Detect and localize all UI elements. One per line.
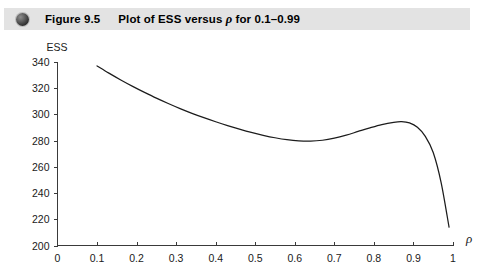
sphere-bullet-icon bbox=[16, 13, 29, 26]
y-tick-label: 280 bbox=[32, 135, 50, 147]
y-axis-title: ESS bbox=[46, 41, 67, 53]
figure-title-post: for 0.1–0.99 bbox=[232, 13, 300, 25]
y-tick-label: 220 bbox=[32, 213, 50, 225]
x-tick-label: 0.2 bbox=[129, 252, 144, 264]
y-tick-label: 300 bbox=[32, 108, 50, 120]
x-tick-label: 0.3 bbox=[169, 252, 184, 264]
x-tick-label: 0.7 bbox=[327, 252, 342, 264]
chart-plot-area: ESS 200220240260280300320340 00.10.20.30… bbox=[0, 34, 499, 280]
y-tick-label: 240 bbox=[32, 187, 50, 199]
x-tick-label: 1 bbox=[450, 252, 456, 264]
figure-caption-text: Figure 9.5Plot of ESS versus ρ for 0.1–0… bbox=[45, 12, 300, 27]
y-tick-label: 320 bbox=[32, 82, 50, 94]
x-tick-label: 0.8 bbox=[367, 252, 382, 264]
x-tick-label: 0.9 bbox=[406, 252, 421, 264]
y-tick-label: 200 bbox=[32, 240, 50, 252]
ess-data-curve bbox=[97, 66, 449, 227]
y-tick-label: 260 bbox=[32, 161, 50, 173]
x-tick-label: 0.6 bbox=[287, 252, 302, 264]
y-axis-ticks: 200220240260280300320340 bbox=[32, 56, 58, 252]
figure-title-pre: Plot of ESS versus bbox=[118, 13, 225, 25]
x-tick-label: 0.4 bbox=[208, 252, 223, 264]
x-tick-label: 0.1 bbox=[90, 252, 105, 264]
x-axis-title: ρ bbox=[465, 231, 472, 246]
x-axis-ticks: 00.10.20.30.40.50.60.70.80.91 bbox=[55, 242, 457, 264]
figure-caption-band: Figure 9.5Plot of ESS versus ρ for 0.1–0… bbox=[4, 8, 470, 30]
y-tick-label: 340 bbox=[32, 56, 50, 68]
ess-vs-rho-line-chart: ESS 200220240260280300320340 00.10.20.30… bbox=[0, 34, 499, 280]
x-tick-label: 0 bbox=[55, 252, 61, 264]
x-tick-label: 0.5 bbox=[248, 252, 263, 264]
figure-number: Figure 9.5 bbox=[45, 13, 100, 25]
figure-root: Figure 9.5Plot of ESS versus ρ for 0.1–0… bbox=[0, 0, 499, 280]
